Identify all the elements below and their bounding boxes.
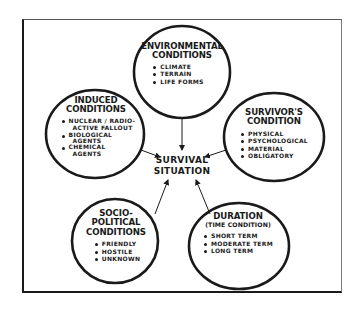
- list-item: LIFE FORMS: [152, 78, 203, 85]
- survival-situation-diagram: ENVIRONMENTAL CONDITIONS CLIMATE TERRAIN…: [0, 0, 361, 313]
- node-socio-political-conditions: SOCIO- POLITICAL CONDITIONS FRIENDLY HOS…: [72, 209, 160, 265]
- item-list: PHYSICAL PSYCHOLOGICAL MATERIAL OBLIGATO…: [240, 130, 308, 160]
- list-item: FRIENDLY: [94, 240, 140, 247]
- list-item: MATERIAL: [240, 145, 308, 152]
- list-item: PHYSICAL: [240, 130, 308, 137]
- list-item: SHORT TERM: [203, 232, 273, 239]
- node-title: DURATION: [190, 212, 286, 221]
- item-list: CLIMATE TERRAIN LIFE FORMS: [152, 63, 203, 85]
- list-item: NUCLEAR / RADIO- ACTIVE FALLOUT: [61, 117, 136, 132]
- list-item: OBLIGATORY: [240, 152, 308, 159]
- item-list: NUCLEAR / RADIO- ACTIVE FALLOUT BIOLOGIC…: [61, 117, 136, 157]
- list-item: HOSTILE: [94, 248, 140, 255]
- list-item: CLIMATE: [152, 63, 203, 70]
- node-induced-conditions: INDUCED CONDITIONS NUCLEAR / RADIO- ACTI…: [50, 96, 142, 160]
- item-line: AGENTS: [69, 151, 136, 157]
- item-list: FRIENDLY HOSTILE UNKNOWN: [94, 240, 140, 262]
- list-item: LONG TERM: [203, 247, 273, 254]
- node-title: CONDITIONS: [134, 51, 230, 60]
- list-item: MODERATE TERM: [203, 240, 273, 247]
- list-item: CHEMICAL AGENTS: [61, 144, 136, 157]
- node-duration: DURATION (TIME CONDITION) SHORT TERM MOD…: [190, 212, 286, 257]
- node-title: CONDITIONS: [50, 105, 142, 114]
- item-line: NUCLEAR / RADIO-: [69, 117, 136, 124]
- node-subtitle: (TIME CONDITION): [190, 221, 286, 229]
- center-line: SURVIVAL: [142, 155, 222, 166]
- list-item: PSYCHOLOGICAL: [240, 137, 308, 144]
- item-list: SHORT TERM MODERATE TERM LONG TERM: [203, 232, 273, 254]
- node-environmental-conditions: ENVIRONMENTAL CONDITIONS CLIMATE TERRAIN…: [134, 42, 230, 88]
- arrow-duration-to-center: [196, 180, 210, 214]
- list-item: TERRAIN: [152, 70, 203, 77]
- center-label-survival-situation: SURVIVAL SITUATION: [142, 155, 222, 177]
- node-title: CONDITION: [226, 117, 322, 126]
- node-survivors-condition: SURVIVOR'S CONDITION PHYSICAL PSYCHOLOGI…: [226, 108, 322, 162]
- center-line: SITUATION: [142, 166, 222, 177]
- list-item: UNKNOWN: [94, 255, 140, 262]
- node-title: CONDITIONS: [72, 228, 160, 237]
